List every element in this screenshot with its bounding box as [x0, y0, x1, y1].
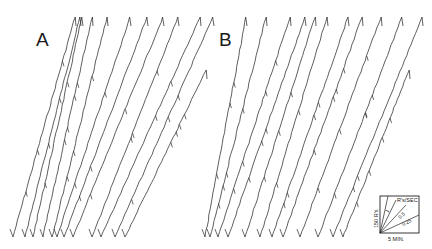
reinforcement-tick [279, 131, 281, 136]
reinforcement-tick [314, 150, 316, 155]
reinforcement-tick [75, 96, 77, 101]
reinforcement-tick [74, 151, 76, 156]
cumulative-trace [64, 17, 148, 237]
reinforcement-tick [217, 174, 219, 179]
reinforcement-tick [132, 200, 134, 205]
cumulative-trace [125, 70, 207, 237]
trace-start-mark [257, 229, 260, 237]
reinforcement-tick [367, 56, 369, 61]
trace-start-mark [112, 229, 115, 237]
cumulative-trace [25, 17, 81, 237]
cumulative-trace [101, 17, 201, 237]
reinforcement-tick [68, 82, 70, 87]
reinforcement-tick [178, 95, 180, 100]
cumulative-trace [283, 17, 363, 237]
reinforcement-tick [344, 68, 346, 73]
reinforcement-tick [131, 138, 133, 143]
rate-legend: R's/SEC 1 0.5 0.25 150 R's 5 MIN. [373, 196, 419, 242]
reinforcement-tick [105, 93, 107, 98]
reinforcement-tick [299, 110, 301, 115]
cumulative-record-figure: R's/SEC 1 0.5 0.25 150 R's 5 MIN. A B [0, 0, 432, 249]
trace-start-mark [340, 229, 343, 237]
reinforcement-tick [287, 193, 289, 198]
reinforcement-tick [284, 203, 286, 208]
reinforcement-tick [266, 91, 268, 96]
cumulative-trace [300, 17, 382, 237]
trace-start-mark [30, 229, 33, 237]
reinforcement-tick [180, 125, 182, 130]
reinforcement-tick [277, 183, 279, 188]
reinforcement-tick [156, 116, 158, 121]
reinforcement-tick [266, 129, 268, 134]
reinforcement-tick [318, 188, 320, 193]
reinforcement-tick [358, 176, 360, 181]
trace-start-mark [40, 229, 43, 237]
reinforcement-tick [26, 192, 28, 197]
reinforcement-tick [171, 81, 173, 86]
trace-start-mark [330, 229, 333, 237]
reinforcement-tick [219, 204, 221, 209]
reinforcement-tick [67, 177, 69, 182]
reinforcement-tick [185, 114, 187, 119]
reinforcement-tick [67, 127, 69, 132]
cumulative-trace [115, 17, 214, 237]
records-plot: R's/SEC 1 0.5 0.25 150 R's 5 MIN. [0, 0, 432, 249]
trace-start-mark [22, 229, 25, 237]
reinforcement-tick [249, 178, 251, 183]
trace-start-mark [98, 229, 101, 237]
reinforcement-tick [390, 118, 392, 123]
reinforcement-tick [91, 167, 93, 172]
reinforcement-tick [157, 71, 159, 76]
reinforcement-tick [65, 140, 67, 145]
trace-start-mark [10, 229, 13, 237]
reinforcement-tick [336, 89, 338, 94]
trace-start-mark [207, 229, 210, 237]
reinforcement-tick [372, 95, 374, 100]
reinforcement-tick [75, 183, 77, 188]
y-scale-label: 150 R's [373, 209, 379, 228]
reinforcement-tick [243, 109, 245, 114]
rate-label-0-5: 0.5 [397, 211, 406, 220]
reinforcement-tick [314, 115, 316, 120]
reinforcement-tick [333, 97, 335, 102]
reinforcement-tick [45, 183, 47, 188]
trace-start-mark [242, 229, 245, 237]
x-scale-label: 5 MIN. [388, 236, 405, 242]
reinforcement-tick [48, 143, 50, 148]
reinforcement-tick [382, 138, 384, 143]
reinforcement-tick [226, 173, 228, 178]
rate-line-1 [380, 196, 388, 233]
reinforcement-tick [276, 61, 278, 66]
trace-start-mark [315, 229, 318, 237]
reinforcement-tick [234, 189, 236, 194]
reinforcement-tick [133, 133, 135, 138]
reinforcement-tick [357, 202, 359, 207]
reinforcement-tick [369, 171, 371, 176]
reinforcement-tick [353, 187, 355, 192]
trace-start-mark [49, 229, 52, 237]
trace-start-mark [89, 229, 92, 237]
trace-start-mark [225, 229, 228, 237]
trace-start-mark [61, 229, 64, 237]
reinforcement-tick [125, 109, 127, 114]
rate-line-steep [380, 200, 396, 233]
panel-a-label: A [36, 29, 49, 51]
cumulative-trace [92, 17, 179, 237]
reinforcement-tick [234, 83, 236, 88]
reinforcement-tick [91, 194, 93, 199]
trace-start-mark [269, 229, 272, 237]
reinforcement-tick [38, 150, 40, 155]
trace-start-mark [215, 229, 218, 237]
panel-b-traces [202, 17, 423, 237]
reinforcement-tick [77, 83, 79, 88]
cumulative-trace [333, 17, 423, 237]
reinforcement-tick [171, 142, 173, 147]
trace-start-mark [54, 229, 57, 237]
reinforcement-tick [335, 194, 337, 199]
reinforcement-tick [168, 117, 170, 122]
trace-start-mark [122, 229, 125, 237]
reinforcement-tick [243, 162, 245, 167]
cumulative-trace [52, 17, 108, 237]
reinforcement-tick [262, 141, 264, 146]
trace-start-mark [297, 229, 300, 237]
